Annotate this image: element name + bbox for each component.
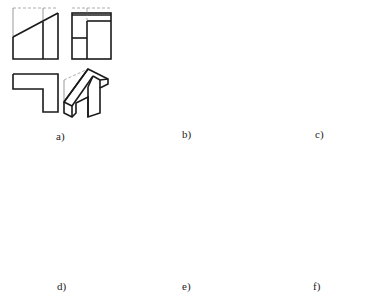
panel-a-label: a) (56, 130, 65, 142)
panel-e-label: e) (182, 280, 191, 292)
panel-a-isometric-view (64, 69, 108, 117)
panel-a-side-view (72, 8, 111, 59)
panel-b-label: b) (182, 128, 191, 140)
panel-d-label: d) (57, 280, 66, 292)
panel-a-top-view (13, 74, 58, 112)
panel-f-label: f) (313, 280, 320, 292)
panel-a-front-view (13, 8, 58, 59)
drawing-canvas (0, 0, 381, 304)
panel-a (13, 8, 111, 117)
panel-c-label: c) (315, 128, 324, 140)
